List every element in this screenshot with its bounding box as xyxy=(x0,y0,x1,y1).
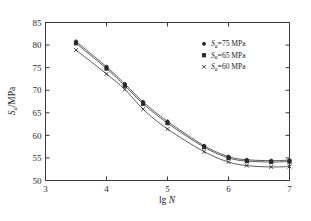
marker-circle xyxy=(203,42,206,45)
y-tick-label: 80 xyxy=(33,40,43,50)
y-tick-label: 75 xyxy=(33,63,43,73)
y-tick-label: 60 xyxy=(33,131,43,141)
x-tick-label: 4 xyxy=(104,184,109,194)
y-tick-label: 70 xyxy=(33,85,43,95)
chart-svg: 34567 5055606570758085 lg N Sa/MPa Sa=75… xyxy=(0,0,311,221)
marker-square xyxy=(202,54,205,57)
marker-square xyxy=(270,160,273,163)
x-tick-label: 6 xyxy=(226,184,231,194)
marker-square xyxy=(227,156,230,159)
svg-text:Sa/MPa: Sa/MPa xyxy=(7,86,18,115)
y-tick-label: 65 xyxy=(33,108,43,118)
marker-square xyxy=(123,84,126,87)
marker-square xyxy=(288,160,291,163)
marker-square xyxy=(203,145,206,148)
y-tick-label: 85 xyxy=(33,18,43,28)
y-axis-title: Sa/MPa xyxy=(7,86,18,115)
chart-figure: 34567 5055606570758085 lg N Sa/MPa Sa=75… xyxy=(0,0,311,221)
x-axis-title: lg N xyxy=(159,195,176,205)
x-tick-label: 7 xyxy=(287,184,292,194)
svg-text:lg N: lg N xyxy=(159,195,176,205)
marker-square xyxy=(245,159,248,162)
marker-square xyxy=(74,42,77,45)
x-tick-label: 5 xyxy=(165,184,170,194)
marker-square xyxy=(166,122,169,125)
marker-square xyxy=(142,102,145,105)
marker-square xyxy=(105,67,108,70)
y-tick-label: 55 xyxy=(33,153,43,163)
y-tick-label: 50 xyxy=(33,176,43,186)
x-tick-label: 3 xyxy=(43,184,48,194)
